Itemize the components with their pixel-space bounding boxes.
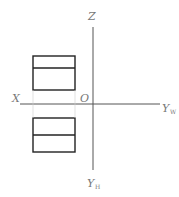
front-view-outline — [33, 56, 75, 90]
front-view — [33, 56, 75, 90]
label-z: Z — [87, 10, 96, 23]
label-y-w-sub: W — [170, 108, 177, 115]
top-view — [33, 118, 75, 152]
label-x: X — [11, 92, 21, 105]
label-y-h-sub: H — [95, 183, 100, 190]
projection-diagram: Z X O Y W Y H — [0, 0, 179, 197]
label-origin: O — [80, 92, 89, 105]
